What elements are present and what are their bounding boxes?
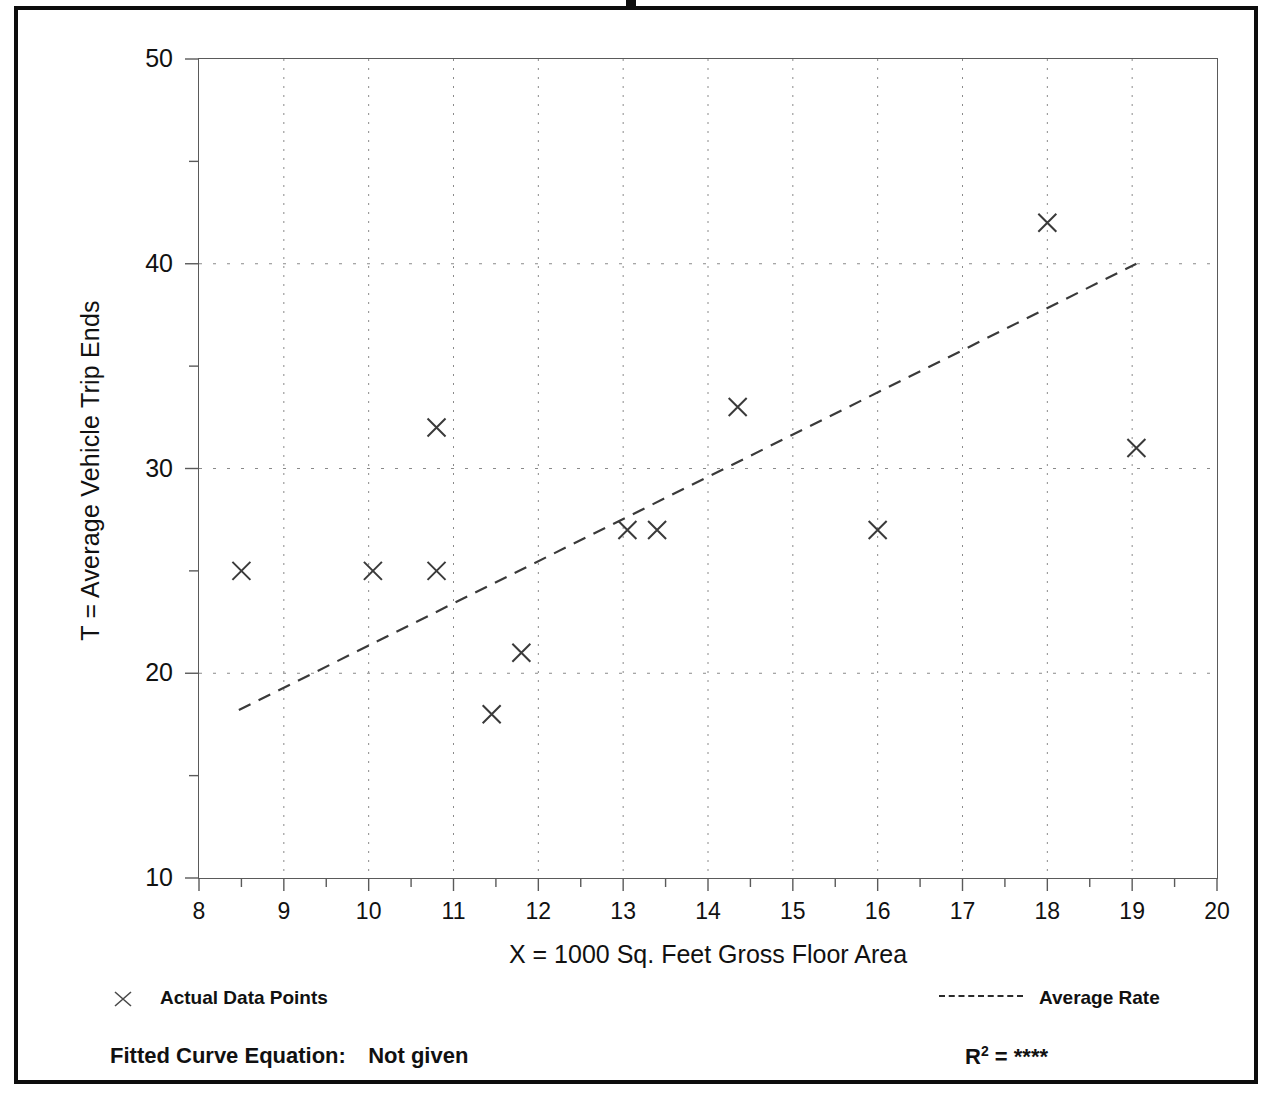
x-tick-label-17: 17 — [933, 900, 993, 923]
legend-label-average-rate: Average Rate — [1039, 987, 1160, 1009]
x-tick-label-15: 15 — [763, 900, 823, 923]
x-tick-label-19: 19 — [1102, 900, 1162, 923]
r-squared-value: R2 = **** — [965, 1043, 1048, 1070]
legend-item-average-rate: Average Rate — [939, 987, 1160, 1009]
fitted-curve-value: Not given — [368, 1043, 468, 1068]
fitted-curve-equation: Fitted Curve Equation: Not given — [110, 1043, 468, 1069]
x-tick-label-20: 20 — [1187, 900, 1247, 923]
r-squared-symbol: R — [965, 1044, 981, 1069]
axis-tick-marks — [0, 0, 1273, 1097]
fitted-curve-label: Fitted Curve Equation: — [110, 1043, 346, 1068]
r-squared-exponent: 2 — [981, 1043, 989, 1059]
scatter-chart: T = Average Vehicle Trip Ends 1020304050… — [0, 0, 1273, 1097]
x-tick-label-12: 12 — [508, 900, 568, 923]
x-tick-label-9: 9 — [254, 900, 314, 923]
legend-item-actual-data-points: Actual Data Points — [110, 987, 328, 1009]
x-axis-title: X = 1000 Sq. Feet Gross Floor Area — [198, 940, 1218, 969]
x-tick-label-14: 14 — [678, 900, 738, 923]
x-tick-label-16: 16 — [848, 900, 908, 923]
r-squared-equals: = — [995, 1044, 1008, 1069]
x-tick-label-8: 8 — [169, 900, 229, 923]
chart-page: T = Average Vehicle Trip Ends 1020304050… — [0, 0, 1273, 1097]
x-marker-icon — [110, 988, 144, 1008]
legend-label-actual-data-points: Actual Data Points — [160, 987, 328, 1009]
x-tick-label-10: 10 — [339, 900, 399, 923]
r-squared-stars: **** — [1014, 1044, 1048, 1069]
dashed-line-icon — [939, 995, 1023, 999]
x-tick-label-18: 18 — [1017, 900, 1077, 923]
x-tick-label-13: 13 — [593, 900, 653, 923]
x-tick-label-11: 11 — [424, 900, 484, 923]
